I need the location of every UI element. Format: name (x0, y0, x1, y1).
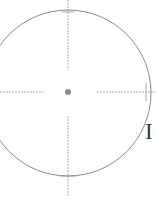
figure-canvas: I (0, 0, 157, 207)
primary-circle-outline (0, 10, 151, 176)
right-edge-label: I (145, 120, 153, 143)
crosshair-tick-group (60, 12, 147, 176)
center-point-marker (65, 89, 71, 95)
diagram-svg (0, 0, 157, 207)
